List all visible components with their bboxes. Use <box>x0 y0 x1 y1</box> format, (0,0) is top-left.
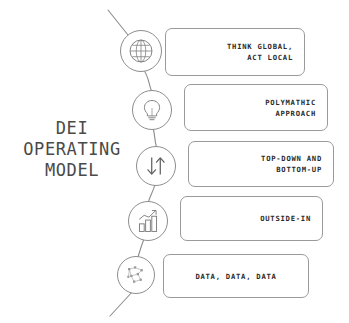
globe-icon <box>121 31 161 71</box>
card-label: POLYMATHIC APPROACH <box>265 97 327 119</box>
node-lightbulb[interactable] <box>132 90 172 130</box>
node-data[interactable] <box>117 256 155 294</box>
diagram-canvas: DEI OPERATING MODEL <box>0 0 349 323</box>
card-data[interactable]: DATA, DATA, DATA <box>163 254 309 298</box>
node-chart[interactable] <box>128 201 168 241</box>
card-polymathic[interactable]: POLYMATHIC APPROACH <box>184 84 328 131</box>
card-outside-in[interactable]: OUTSIDE-IN <box>180 196 323 241</box>
card-label: TOP-DOWN AND BOTTOM-UP <box>261 153 333 175</box>
node-arrows[interactable] <box>136 146 176 186</box>
data-network-icon <box>118 257 154 293</box>
node-globe[interactable] <box>120 30 162 72</box>
page-title: DEI OPERATING MODEL <box>8 118 136 181</box>
card-label: THINK GLOBAL, ACT LOCAL <box>227 41 304 63</box>
card-think-global[interactable]: THINK GLOBAL, ACT LOCAL <box>165 28 305 76</box>
card-top-down[interactable]: TOP-DOWN AND BOTTOM-UP <box>188 141 334 187</box>
spine-segment-bottom <box>110 291 133 316</box>
card-label: OUTSIDE-IN <box>260 213 322 224</box>
up-down-arrows-icon <box>137 147 175 185</box>
card-label: DATA, DATA, DATA <box>164 271 308 282</box>
lightbulb-icon <box>133 91 171 129</box>
bar-chart-growth-icon <box>129 202 167 240</box>
